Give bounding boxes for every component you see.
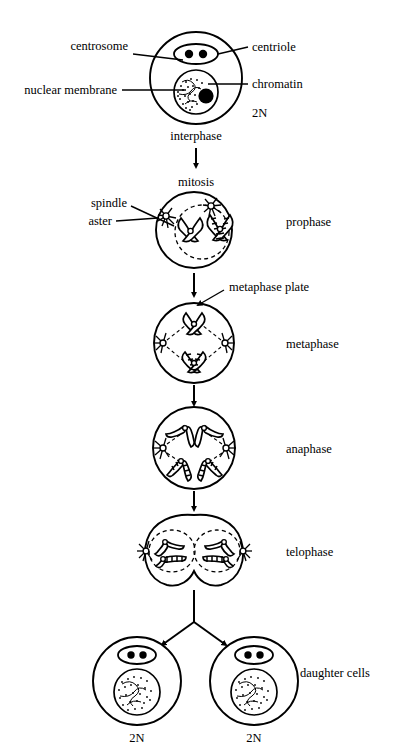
label-mitosis: mitosis: [178, 175, 214, 189]
telophase-centrosome-right: [240, 548, 246, 554]
stage-label-telophase: telophase: [286, 545, 334, 559]
daughter-right-centriole-1: [244, 651, 251, 658]
daughter-left-centriole-1: [127, 651, 134, 658]
mitosis-diagram: centrosome centriole nuclear membrane ch…: [0, 0, 407, 749]
metaphase-centrosome-left: [160, 340, 166, 346]
stage-prophase: spindle aster prophase: [88, 192, 331, 268]
stage-label-anaphase: anaphase: [286, 442, 332, 456]
label-centriole: centriole: [252, 40, 296, 54]
metaphase-centrosome-right: [222, 340, 228, 346]
anaphase-centrosome-left: [160, 445, 166, 451]
flow-branch-to-daughter-cells: [162, 590, 226, 645]
daughter-right-ploidy: 2N: [246, 731, 261, 745]
nucleolus: [198, 88, 213, 103]
anaphase-centrosome-right: [223, 445, 229, 451]
centrosome-oval: [174, 44, 218, 64]
leader-metaphase-plate: [198, 290, 224, 305]
stage-telophase: telophase: [137, 515, 334, 586]
ploidy-interphase: 2N: [252, 106, 267, 120]
centriole-dot-right: [199, 50, 207, 58]
aster-centrosome-core-right: [208, 203, 214, 209]
label-chromatin: chromatin: [252, 77, 303, 91]
label-nuclear-membrane: nuclear membrane: [24, 83, 117, 97]
branch-arm-left: [162, 622, 194, 645]
daughter-right-centriole-2: [256, 651, 263, 658]
stage-label-metaphase: metaphase: [286, 337, 339, 351]
centriole-dot-left: [185, 50, 193, 58]
stage-interphase: centrosome centriole nuclear membrane ch…: [24, 32, 303, 143]
daughter-left-centrosome: [118, 646, 156, 664]
label-metaphase-plate: metaphase plate: [229, 280, 310, 294]
label-aster: aster: [88, 214, 112, 228]
leader-aster: [116, 218, 158, 221]
daughter-right-nucleus: [231, 669, 277, 715]
aster-centrosome-core-left: [163, 213, 169, 219]
stage-metaphase: metaphase plate metaphase: [154, 280, 339, 383]
daughter-right-centrosome: [235, 646, 273, 664]
stage-anaphase: anaphase: [153, 407, 332, 489]
label-centrosome: centrosome: [70, 39, 128, 53]
interphase-centrosome: [174, 44, 218, 64]
daughter-left-centriole-2: [139, 651, 146, 658]
daughter-cell-right: 2N: [210, 637, 298, 745]
stage-label-prophase: prophase: [286, 215, 332, 229]
stage-label-interphase: interphase: [170, 129, 222, 143]
telophase-centrosome-left: [143, 548, 149, 554]
mitosis-diagram-canvas: centrosome centriole nuclear membrane ch…: [0, 0, 407, 749]
branch-arm-right: [194, 622, 226, 645]
daughter-left-ploidy: 2N: [129, 731, 144, 745]
stage-label-daughter-cells: daughter cells: [300, 666, 370, 680]
label-spindle: spindle: [91, 196, 128, 210]
interphase-nucleus: [174, 70, 218, 114]
daughter-cell-left: 2N: [93, 637, 181, 745]
daughter-left-nucleus: [114, 669, 160, 715]
